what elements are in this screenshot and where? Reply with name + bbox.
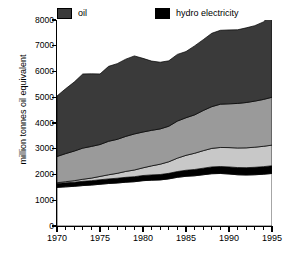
x-tick-minor-1992 [246, 227, 247, 230]
y-tick-label-1000: 1000 [20, 196, 54, 205]
x-axis-line [56, 226, 273, 227]
legend-swatch-hydro-electricity [155, 8, 170, 19]
legend-label-oil: oil [78, 9, 87, 18]
x-tick-minor-1994 [263, 227, 264, 230]
y-tick-1000 [52, 200, 56, 201]
x-tick-minor-1973 [82, 227, 83, 230]
x-tick-1990 [228, 227, 229, 232]
x-tick-minor-1986 [194, 227, 195, 230]
legend-item-hydro-electricity: hydro electricity [155, 6, 239, 20]
y-tick-8000 [52, 19, 56, 20]
x-tick-minor-1989 [220, 227, 221, 230]
x-tick-label-1990: 1990 [219, 234, 239, 243]
y-tick-6000 [52, 71, 56, 72]
x-tick-minor-1977 [117, 227, 118, 230]
y-tick-label-8000: 8000 [20, 16, 54, 25]
y-tick-2000 [52, 174, 56, 175]
x-tick-minor-1978 [125, 227, 126, 230]
x-tick-minor-1993 [254, 227, 255, 230]
x-tick-1975 [99, 227, 100, 232]
x-tick-minor-1982 [160, 227, 161, 230]
stacked-area-chart-figure: oil natural gas nuclear energy hydro ele… [0, 0, 286, 261]
stacked-area-series [57, 20, 272, 226]
y-tick-label-6000: 6000 [20, 67, 54, 76]
x-tick-label-1985: 1985 [176, 234, 196, 243]
x-tick-label-1995: 1995 [262, 234, 282, 243]
y-tick-4000 [52, 122, 56, 123]
x-tick-label-1975: 1975 [90, 234, 110, 243]
y-tick-0 [52, 225, 56, 226]
legend-item-oil: oil [57, 6, 138, 20]
x-tick-minor-1991 [237, 227, 238, 230]
legend-swatch-oil [57, 8, 72, 19]
x-tick-1970 [56, 227, 57, 232]
y-tick-label-4000: 4000 [20, 119, 54, 128]
x-tick-label-1980: 1980 [133, 234, 153, 243]
y-tick-3000 [52, 148, 56, 149]
x-tick-minor-1988 [211, 227, 212, 230]
x-tick-1995 [271, 227, 272, 232]
y-tick-7000 [52, 45, 56, 46]
x-tick-1980 [142, 227, 143, 232]
x-tick-minor-1972 [74, 227, 75, 230]
x-tick-minor-1981 [151, 227, 152, 230]
x-tick-minor-1984 [177, 227, 178, 230]
y-tick-label-5000: 5000 [20, 93, 54, 102]
y-tick-label-2000: 2000 [20, 170, 54, 179]
legend-label-hydro-electricity: hydro electricity [176, 9, 239, 18]
x-tick-minor-1983 [168, 227, 169, 230]
x-tick-label-1970: 1970 [47, 234, 67, 243]
y-tick-5000 [52, 97, 56, 98]
y-tick-label-0: 0 [20, 222, 54, 231]
x-tick-1985 [185, 227, 186, 232]
y-axis-labels: 010002000300040005000600070008000 [10, 0, 54, 261]
x-tick-minor-1976 [108, 227, 109, 230]
x-tick-minor-1971 [65, 227, 66, 230]
x-tick-minor-1974 [91, 227, 92, 230]
y-tick-label-3000: 3000 [20, 144, 54, 153]
y-tick-label-7000: 7000 [20, 41, 54, 50]
x-tick-minor-1987 [203, 227, 204, 230]
x-tick-minor-1979 [134, 227, 135, 230]
plot-area [57, 20, 272, 226]
